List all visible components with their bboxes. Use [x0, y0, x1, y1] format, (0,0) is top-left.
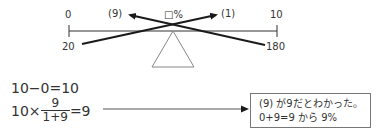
fraction-numerator: 9 [41, 97, 70, 111]
label-top-right: 10 [270, 9, 283, 20]
fraction-denominator: 1+9 [41, 111, 70, 124]
label-bottom-right: 180 [266, 41, 285, 52]
label-bottom-left: 20 [62, 41, 75, 52]
conclusion-box: (9) が9だとわかった。 0+9=9 から 9% [250, 93, 371, 128]
label-arrow-1: (1) [221, 8, 235, 19]
equation-proportion: 10× 9 1+9 =9 [11, 97, 91, 124]
fulcrum-triangle [152, 31, 194, 67]
label-arrow-9: (9) [108, 8, 122, 19]
fraction: 9 1+9 [41, 97, 70, 124]
equation-suffix: =9 [70, 103, 91, 119]
equation-difference: 10−0=10 [11, 80, 79, 96]
conclusion-line-2: 0+9=9 から 9% [259, 111, 370, 125]
label-top-left: 0 [65, 9, 71, 20]
conclusion-line-1: (9) が9だとわかった。 [259, 97, 370, 111]
label-unknown-percent: □% [164, 9, 183, 20]
equation-prefix: 10× [11, 103, 41, 119]
